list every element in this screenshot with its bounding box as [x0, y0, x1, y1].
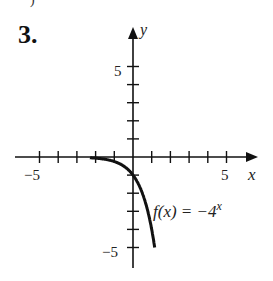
x-axis-arrow-icon	[246, 152, 258, 162]
y-axis-label: y	[138, 21, 148, 39]
function-label-base: f(x) = −4	[153, 202, 217, 221]
function-graph: −5 5 x 5 −5 y f(x) = −4x	[0, 0, 273, 281]
x-axis-label: x	[247, 165, 256, 184]
y-axis-arrow-icon	[128, 27, 138, 39]
function-label: f(x) = −4x	[153, 199, 223, 221]
function-label-exponent: x	[216, 199, 223, 213]
y-tick-label-neg5: −5	[102, 244, 118, 260]
y-tick-label-5: 5	[114, 63, 122, 79]
function-curve	[90, 158, 155, 248]
x-tick-label-5: 5	[221, 167, 229, 183]
x-tick-label-neg5: −5	[24, 167, 40, 183]
